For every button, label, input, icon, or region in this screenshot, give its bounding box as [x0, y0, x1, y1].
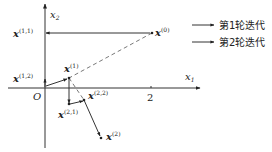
legend: 第1轮迭代 第2轮迭代: [192, 19, 265, 48]
label-x12: x(1,2): [12, 72, 33, 84]
round1-moves: [45, 33, 150, 87]
label-x1: x(1): [63, 62, 78, 74]
label-x22: x(2,2): [87, 89, 108, 101]
point-x22: [83, 99, 86, 102]
label-x21: x(2,1): [57, 108, 78, 120]
tick-label-2: 2: [147, 92, 153, 103]
point-x0: [151, 32, 154, 35]
label-x2: x(2): [105, 130, 120, 142]
legend-item-round1: 第1轮迭代: [192, 19, 265, 31]
point-x21: [68, 103, 71, 106]
search-path-dashed: [69, 33, 152, 100]
legend-item-round2: 第2轮迭代: [192, 36, 265, 48]
iteration-diagram: x1 x2 O 2 x(0) x(1,1) x(1,2) x(1) x(2,1)…: [0, 0, 272, 152]
svg-text:第2轮迭代: 第2轮迭代: [219, 36, 265, 48]
point-x1: [68, 77, 71, 80]
point-x2: [100, 137, 103, 140]
origin-label: O: [33, 91, 41, 102]
label-x0: x(0): [154, 26, 169, 38]
y-axis-label: x2: [50, 9, 60, 21]
svg-text:第1轮迭代: 第1轮迭代: [219, 19, 265, 31]
x-axis-label: x1: [185, 71, 194, 83]
label-x11: x(1,1): [12, 27, 33, 39]
